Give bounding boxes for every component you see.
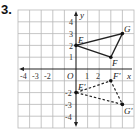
label-g-prime: G' <box>124 106 133 116</box>
x-tick: 2 <box>96 72 100 81</box>
y-axis-label: y <box>79 10 84 20</box>
x-axis-label: x <box>126 71 131 81</box>
x-tick: -4 <box>20 72 27 81</box>
coordinate-graph: y x O -4 -3 -2 1 2 4 3 2 1 -2 -3 -4 E F … <box>0 0 137 139</box>
x-axis-left-arrow-icon <box>19 67 24 71</box>
y-tick: 3 <box>69 30 73 39</box>
axes <box>21 13 132 125</box>
y-tick: 1 <box>69 53 73 62</box>
origin-label: O <box>67 71 74 81</box>
label-e: E <box>77 35 84 45</box>
y-tick: -3 <box>65 101 72 110</box>
y-tick: -2 <box>65 89 72 98</box>
y-axis-up-arrow-icon <box>74 11 78 16</box>
y-axis-down-arrow-icon <box>74 122 78 127</box>
label-e-prime: E' <box>77 82 86 92</box>
label-g: G <box>124 24 131 34</box>
label-f: F <box>111 58 118 68</box>
x-tick: -2 <box>44 72 51 81</box>
y-tick: -4 <box>65 113 72 122</box>
y-tick: 2 <box>69 42 73 51</box>
label-f-prime: F' <box>112 71 121 81</box>
x-tick: 1 <box>85 72 89 81</box>
x-tick: -3 <box>32 72 39 81</box>
y-tick: 4 <box>69 18 73 27</box>
